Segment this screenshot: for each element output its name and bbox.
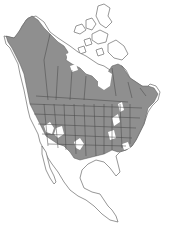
range-map — [0, 0, 174, 228]
north-america-map — [0, 0, 174, 228]
